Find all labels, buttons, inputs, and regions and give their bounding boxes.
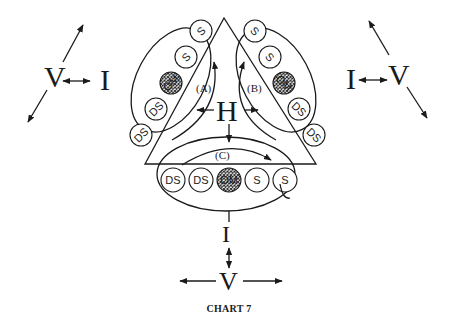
right-v-arrow-up — [369, 21, 389, 55]
left-v-label: V — [44, 60, 66, 93]
right-i-label: I — [346, 62, 356, 95]
left-v-arrow-down — [28, 90, 47, 122]
loop-a-label: (A) — [196, 82, 212, 95]
loop-b-label: (B) — [247, 82, 262, 95]
loop-c-label: (C) — [215, 149, 230, 162]
svg-text:S: S — [253, 174, 260, 186]
chain-node: S — [245, 168, 269, 192]
chain-node-om: OM — [160, 72, 182, 94]
chain-node: DS — [145, 98, 167, 120]
chain-node-om: OM — [273, 72, 295, 94]
chain-node: S — [259, 46, 281, 68]
bottom-chain: DS DS OM S S — [161, 168, 297, 192]
bottom-v-label: V — [219, 267, 238, 296]
svg-text:S: S — [281, 174, 288, 186]
loop-b-arrow — [239, 62, 276, 140]
chart-caption: CHART 7 — [206, 303, 251, 314]
chain-node: DS — [189, 168, 213, 192]
center-h-label: H — [216, 94, 238, 127]
svg-text:OM: OM — [220, 174, 238, 186]
chain-node: S — [273, 168, 297, 192]
chain-node-om: OM — [217, 168, 241, 192]
chain-node: DS — [130, 124, 152, 146]
right-v-arrow-down — [407, 87, 427, 118]
chain-node: S — [190, 20, 212, 42]
left-i-label: I — [100, 63, 110, 96]
chart-7-diagram: (A) (B) (C) H S S OM DS DS S S OM DS DS … — [0, 0, 449, 329]
svg-text:DS: DS — [193, 174, 208, 186]
chain-node: DS — [288, 98, 310, 120]
svg-text:DS: DS — [165, 174, 180, 186]
chain-node: DS — [161, 168, 185, 192]
right-v-label: V — [388, 58, 410, 91]
chain-node: DS — [303, 124, 325, 146]
bottom-i-label: I — [222, 221, 230, 247]
left-v-arrow-up — [63, 25, 83, 62]
chain-node: S — [244, 20, 266, 42]
chain-node: S — [175, 46, 197, 68]
